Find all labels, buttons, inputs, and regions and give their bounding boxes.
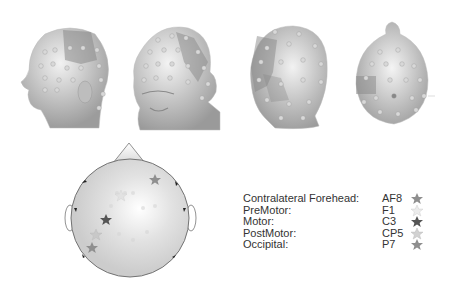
legend-electrode: AF8	[382, 193, 402, 205]
head-view-left-lateral	[15, 20, 110, 130]
head-view-front-oblique	[128, 22, 223, 132]
head-view-back-oblique	[245, 22, 335, 130]
legend-electrode: P7	[382, 239, 395, 251]
head-view-top	[350, 20, 435, 130]
scalp-circle	[71, 159, 189, 277]
electrode-topomap	[55, 138, 215, 282]
legend-region: Contralateral Forehead:	[243, 193, 359, 205]
legend-region: Motor:	[243, 216, 274, 228]
star-icon	[410, 238, 424, 251]
legend-region: Occipital:	[243, 239, 288, 251]
legend-electrode: C3	[382, 216, 396, 228]
